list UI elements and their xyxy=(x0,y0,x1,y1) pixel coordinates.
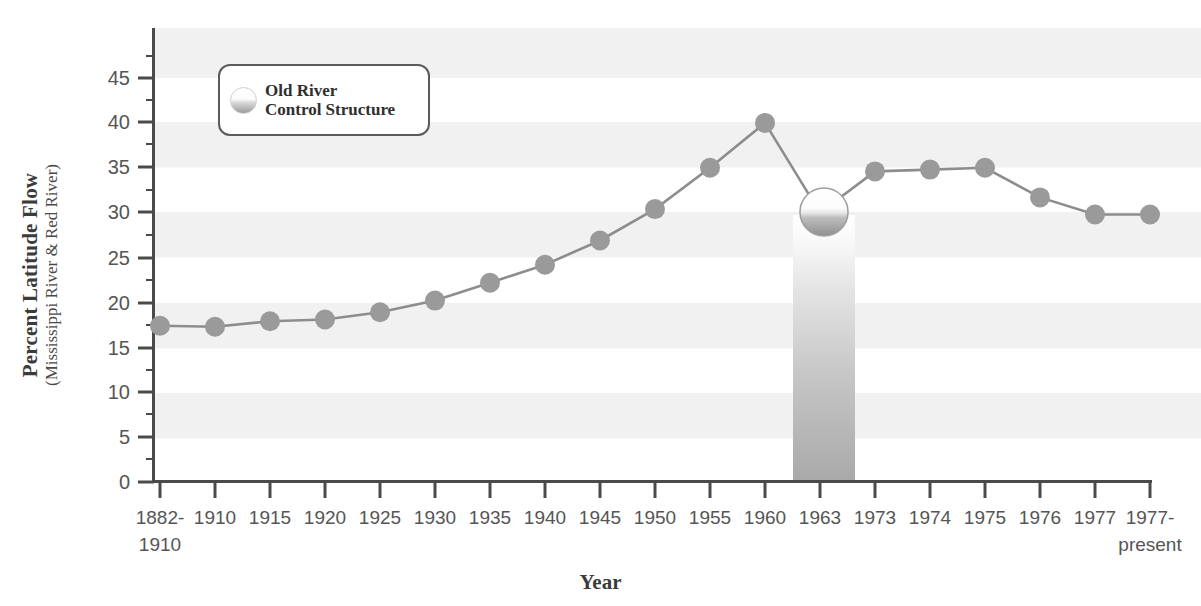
legend-label: Old River Control Structure xyxy=(265,81,395,119)
legend-box[interactable]: Old River Control Structure xyxy=(218,64,430,136)
data-marker[interactable] xyxy=(260,311,280,331)
x-tick-label: 1977-present xyxy=(1105,504,1195,558)
data-marker[interactable] xyxy=(205,317,225,337)
data-marker[interactable] xyxy=(315,310,335,330)
data-marker[interactable] xyxy=(150,316,170,336)
old-river-control-structure-band xyxy=(793,215,855,482)
y-tick-label: 20 xyxy=(90,292,130,315)
data-marker[interactable] xyxy=(370,302,390,322)
y-tick-label: 10 xyxy=(90,381,130,404)
y-tick-label: 40 xyxy=(90,111,130,134)
x-tick-label-line: present xyxy=(1105,531,1195,558)
legend-label-line2: Control Structure xyxy=(265,100,395,119)
old-river-control-structure-marker[interactable] xyxy=(800,188,848,236)
data-marker[interactable] xyxy=(865,161,885,181)
data-marker[interactable] xyxy=(700,158,720,178)
y-tick-label: 30 xyxy=(90,201,130,224)
sphere-icon xyxy=(230,87,257,114)
data-marker[interactable] xyxy=(1030,187,1050,207)
x-tick-label-line: 1977- xyxy=(1105,504,1195,531)
y-tick-label: 5 xyxy=(90,426,130,449)
x-tick-label-line: 1910 xyxy=(115,531,205,558)
y-tick-label: 15 xyxy=(90,337,130,360)
chart-figure: 45 40 35 30 25 20 15 10 5 0 1882-1910191… xyxy=(0,0,1201,606)
y-tick-label: 35 xyxy=(90,156,130,179)
data-marker[interactable] xyxy=(590,231,610,251)
y-tick-label: 45 xyxy=(90,67,130,90)
data-marker[interactable] xyxy=(1085,205,1105,225)
y-tick-label: 0 xyxy=(90,471,130,494)
legend-label-line1: Old River xyxy=(265,81,395,100)
data-marker[interactable] xyxy=(755,113,775,133)
data-marker[interactable] xyxy=(975,158,995,178)
data-marker[interactable] xyxy=(1140,205,1160,225)
data-marker[interactable] xyxy=(480,273,500,293)
data-marker[interactable] xyxy=(425,291,445,311)
y-tick-label: 25 xyxy=(90,247,130,270)
data-marker[interactable] xyxy=(645,199,665,219)
data-marker[interactable] xyxy=(535,255,555,275)
data-marker[interactable] xyxy=(920,160,940,180)
x-axis-title: Year xyxy=(0,570,1201,595)
